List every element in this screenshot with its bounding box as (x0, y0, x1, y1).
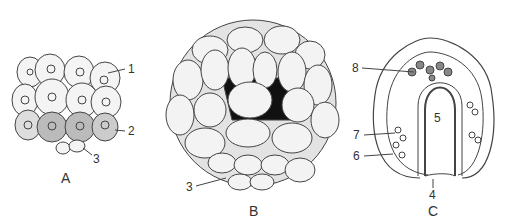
caption-b: B (249, 203, 258, 219)
figure-c (362, 38, 494, 188)
label-b-3: 3 (186, 180, 193, 194)
label-a-2: 2 (128, 124, 135, 138)
label-c-5: 5 (434, 111, 441, 125)
caption-c: C (428, 203, 438, 219)
figure-a (12, 54, 125, 155)
label-c-4: 4 (429, 188, 436, 202)
label-c-8: 8 (352, 61, 359, 75)
label-a-1: 1 (128, 62, 135, 76)
label-a-3: 3 (93, 152, 100, 166)
figure-b (166, 20, 339, 190)
label-c-7: 7 (353, 128, 360, 142)
embryo-diagram: 1 2 3 A 3 B (0, 0, 523, 224)
caption-a: A (61, 170, 71, 186)
label-c-6: 6 (353, 149, 360, 163)
